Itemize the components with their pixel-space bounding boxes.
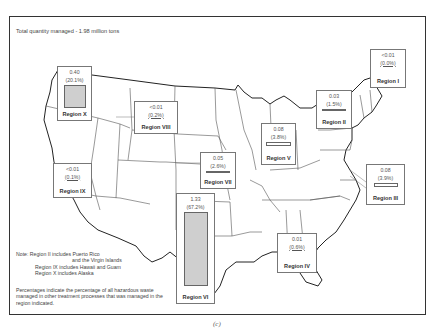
region-vi-label: Region VI xyxy=(177,294,214,302)
region-x-bar xyxy=(64,85,86,108)
region-vi-box: 1.33 (67.2%) Region VI xyxy=(176,193,215,304)
region-ii-value: 0.03 xyxy=(317,93,351,101)
region-iii-percent: (3.9%) xyxy=(367,175,404,183)
region-i-box: <0.01 (0.0%) Region I xyxy=(370,49,406,88)
region-vii-box: 0.05 (2.6%) Region VII xyxy=(200,152,236,189)
region-v-value: 0.08 xyxy=(262,126,295,134)
percentage-note: Percentages indicate the percentage of a… xyxy=(16,287,176,306)
region-viii-value: <0.01 xyxy=(135,104,177,112)
region-vi-bar xyxy=(184,212,208,286)
region-vi-percent: (67.2%) xyxy=(177,204,214,212)
region-i-percent: (0.0%) xyxy=(371,60,405,68)
region-vii-label: Region VII xyxy=(201,179,235,187)
region-iii-label: Region III xyxy=(367,195,404,203)
region-x-label: Region X xyxy=(58,111,91,119)
region-ii-percent: (1.5%) xyxy=(317,101,351,109)
region-ii-bar xyxy=(322,109,346,111)
region-ix-value: <0.01 xyxy=(54,166,91,174)
region-notes: Note: Region II includes Puerto Rico and… xyxy=(16,251,122,277)
region-iii-box: 0.08 (3.9%) Region III xyxy=(366,164,405,205)
region-iv-label: Region IV xyxy=(278,263,316,271)
region-i-value: <0.01 xyxy=(371,52,405,60)
region-iv-percent: (0.6%) xyxy=(278,244,316,252)
figure-caption: (c) xyxy=(213,320,221,328)
region-ix-label: Region IX xyxy=(54,188,91,196)
region-v-bar xyxy=(266,142,291,146)
region-vi-value: 1.33 xyxy=(177,196,214,204)
region-x-box: 0.40 (20.1%) Region X xyxy=(57,66,92,121)
region-viii-label: Region VIII xyxy=(135,124,177,132)
region-viii-box: <0.01 (0.2%) Region VIII xyxy=(134,101,178,134)
region-ii-label: Region II xyxy=(317,119,351,127)
region-iii-value: 0.08 xyxy=(367,167,404,175)
region-vii-bar xyxy=(206,171,230,173)
region-iv-box: 0.01 (0.6%) Region IV xyxy=(277,233,317,273)
region-x-percent: (20.1%) xyxy=(58,77,91,85)
region-i-label: Region I xyxy=(371,78,405,86)
region-v-label: Region V xyxy=(262,155,295,163)
region-vii-percent: (2.6%) xyxy=(201,163,235,171)
region-iii-bar xyxy=(374,183,398,187)
region-iv-value: 0.01 xyxy=(278,236,316,244)
region-viii-percent: (0.2%) xyxy=(135,112,177,120)
region-ix-box: <0.01 (0.1%) Region IX xyxy=(53,163,92,198)
region-v-percent: (3.8%) xyxy=(262,134,295,142)
region-vii-value: 0.05 xyxy=(201,155,235,163)
region-ii-box: 0.03 (1.5%) Region II xyxy=(316,90,352,129)
region-x-value: 0.40 xyxy=(58,69,91,77)
region-ix-percent: (0.1%) xyxy=(54,174,91,182)
region-v-box: 0.08 (3.8%) Region V xyxy=(261,123,296,165)
note-line-4: Region X includes Alaska xyxy=(16,270,122,276)
